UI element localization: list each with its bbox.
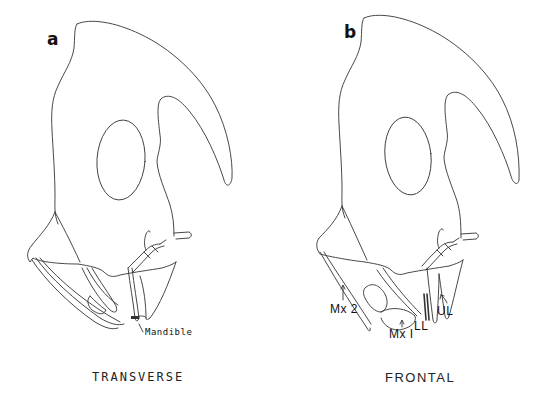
mandible-pointer-a: [139, 324, 143, 332]
gena-b: [317, 206, 463, 274]
maxilla1-b: [364, 268, 422, 330]
palps-a: [128, 231, 166, 272]
panel-a-drawing: [28, 21, 233, 332]
panel-letter-b: b: [344, 24, 356, 41]
panel-letter-a: a: [47, 31, 58, 48]
label-ul: UL: [437, 305, 453, 317]
label-ll: LL: [414, 320, 428, 332]
eye-a: [94, 118, 147, 201]
head-outline-b: [339, 15, 519, 238]
mx1-pointer: [400, 320, 404, 327]
lower-lip-b: [424, 294, 429, 320]
mouthparts-a: [82, 268, 118, 314]
clypeus-a: [128, 262, 176, 321]
caption-transverse: TRANSVERSE: [92, 371, 184, 383]
label-mx2: Mx 2: [330, 303, 358, 315]
gena-ridge-a: [55, 212, 80, 262]
palps-b: [422, 229, 459, 270]
antenna-stub-a: [174, 232, 191, 239]
line-drawing: [0, 0, 539, 393]
label-mandible: Mandible: [145, 328, 192, 337]
anatomy-figure: a b Mandible Mx 2 Mx I LL UL TRANSVERSE …: [0, 0, 539, 393]
antenna-stub-b: [461, 233, 478, 240]
panel-b-drawing: [317, 15, 519, 331]
gena-ridge-b: [342, 206, 367, 260]
gena-a: [28, 212, 176, 276]
caption-frontal: FRONTAL: [385, 371, 455, 384]
mandible-tip-a: [131, 316, 139, 319]
ul-pointer: [440, 295, 447, 303]
eye-b: [381, 115, 435, 197]
head-outline-a: [52, 21, 232, 236]
label-mx1: Mx I: [389, 328, 414, 340]
stylets-a: [32, 258, 124, 329]
